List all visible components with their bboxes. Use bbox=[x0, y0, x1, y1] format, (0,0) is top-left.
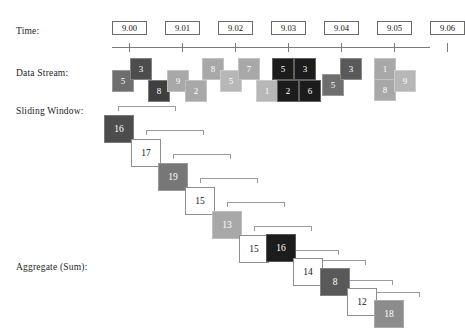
bracket-left-tick bbox=[227, 202, 228, 207]
bracket-right-tick bbox=[175, 106, 176, 111]
bracket-right-tick bbox=[338, 250, 339, 255]
stream-block: 1 bbox=[374, 58, 396, 80]
aggregate-block: 16 bbox=[266, 234, 296, 262]
aggregate-block: 16 bbox=[104, 115, 134, 143]
axis-tick bbox=[129, 43, 130, 52]
axis-tick bbox=[341, 43, 342, 52]
aggregate-block: 17 bbox=[131, 139, 161, 167]
time-label-9-06: 9.06 bbox=[430, 21, 465, 35]
stream-block: 5 bbox=[272, 58, 294, 80]
bracket-left-tick bbox=[118, 106, 119, 111]
aggregate-block: 18 bbox=[374, 300, 404, 328]
bracket-right-tick bbox=[203, 130, 204, 135]
time-label-9-05: 9.05 bbox=[377, 21, 412, 35]
bracket-bar bbox=[227, 202, 285, 203]
bracket-left-tick bbox=[200, 178, 201, 183]
stream-block: 8 bbox=[374, 79, 396, 101]
window-bracket bbox=[227, 202, 285, 208]
aggregate-block: 13 bbox=[212, 211, 242, 239]
stream-block: 2 bbox=[185, 80, 207, 102]
axis-tick bbox=[447, 43, 448, 52]
time-label-9-02: 9.02 bbox=[218, 21, 253, 35]
bracket-bar bbox=[118, 106, 176, 107]
axis-tick bbox=[288, 43, 289, 52]
time-label-9-01: 9.01 bbox=[165, 21, 200, 35]
bracket-bar bbox=[173, 154, 231, 155]
label-aggregate: Aggregate (Sum): bbox=[16, 262, 88, 272]
bracket-left-tick bbox=[146, 130, 147, 135]
bracket-right-tick bbox=[365, 260, 366, 265]
bracket-left-tick bbox=[254, 226, 255, 231]
time-label-9-03: 9.03 bbox=[271, 21, 306, 35]
axis-tick bbox=[182, 43, 183, 52]
bracket-right-tick bbox=[311, 226, 312, 231]
axis-tick bbox=[394, 43, 395, 52]
time-label-9-04: 9.04 bbox=[324, 21, 359, 35]
stream-block: 3 bbox=[130, 58, 152, 80]
stream-block: 1 bbox=[256, 80, 278, 102]
bracket-right-tick bbox=[257, 178, 258, 183]
bracket-bar bbox=[200, 178, 258, 179]
bracket-right-tick bbox=[392, 280, 393, 285]
stream-block: 3 bbox=[340, 58, 362, 80]
window-bracket bbox=[254, 226, 312, 232]
label-data-stream: Data Stream: bbox=[16, 68, 68, 78]
bracket-left-tick bbox=[173, 154, 174, 159]
label-sliding-window: Sliding Window: bbox=[16, 106, 84, 116]
bracket-right-tick bbox=[230, 154, 231, 159]
aggregate-block: 14 bbox=[293, 258, 323, 286]
aggregate-block: 15 bbox=[239, 235, 269, 263]
stream-block: 6 bbox=[299, 80, 321, 102]
aggregate-block: 19 bbox=[158, 163, 188, 191]
bracket-right-tick bbox=[419, 292, 420, 297]
stream-block: 7 bbox=[238, 58, 260, 80]
window-bracket bbox=[118, 106, 176, 112]
bracket-bar bbox=[254, 226, 312, 227]
time-axis-line bbox=[112, 47, 430, 48]
aggregate-block: 15 bbox=[185, 187, 215, 215]
label-time: Time: bbox=[16, 26, 39, 36]
aggregate-block: 8 bbox=[320, 268, 350, 296]
aggregate-block: 12 bbox=[347, 288, 377, 316]
stream-block: 2 bbox=[277, 80, 299, 102]
stream-block: 9 bbox=[394, 70, 416, 92]
axis-tick bbox=[235, 43, 236, 52]
window-bracket bbox=[200, 178, 258, 184]
bracket-right-tick bbox=[284, 202, 285, 207]
time-label-9-00: 9.00 bbox=[112, 21, 147, 35]
window-bracket bbox=[146, 130, 204, 136]
bracket-bar bbox=[146, 130, 204, 131]
stream-block: 3 bbox=[294, 58, 316, 80]
window-bracket bbox=[173, 154, 231, 160]
